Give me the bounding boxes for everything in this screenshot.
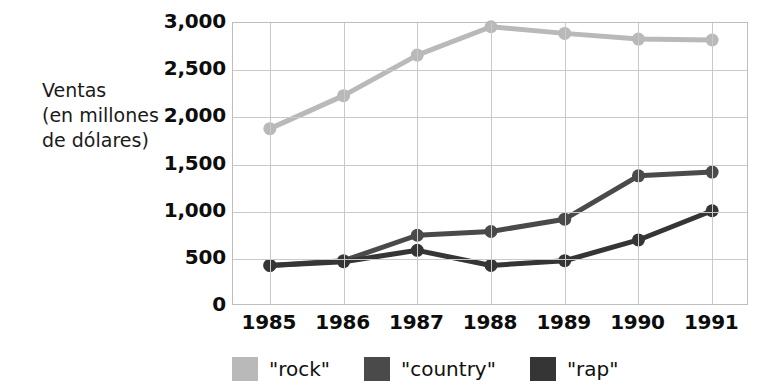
- x-tick-label: 1988: [453, 310, 527, 334]
- legend-swatch-icon: [530, 357, 556, 381]
- x-tick-label: 1989: [527, 310, 601, 334]
- x-tick-label: 1991: [674, 310, 748, 334]
- legend-item[interactable]: "rock": [232, 357, 330, 381]
- gridline-vertical: [417, 23, 418, 304]
- x-axis-tick-labels: 1985198619871988198919901991: [232, 310, 748, 338]
- legend-label: "rap": [567, 357, 619, 381]
- legend-item[interactable]: "rap": [530, 357, 619, 381]
- y-tick-label: 3,000: [148, 9, 226, 33]
- y-tick-label: 1,500: [148, 151, 226, 175]
- chart-figure: Ventas (en millones de dólares) 05001,00…: [0, 0, 772, 392]
- y-tick-label: 2,500: [148, 56, 226, 80]
- x-tick-label: 1986: [306, 310, 380, 334]
- legend-item[interactable]: "country": [364, 357, 496, 381]
- legend-swatch-icon: [364, 357, 390, 381]
- gridline-vertical: [344, 23, 345, 304]
- x-tick-label: 1987: [379, 310, 453, 334]
- gridline-vertical: [565, 23, 566, 304]
- y-tick-label: 0: [148, 292, 226, 316]
- gridline-horizontal: [233, 212, 747, 213]
- gridline-horizontal: [233, 117, 747, 118]
- y-tick-label: 2,000: [148, 103, 226, 127]
- y-tick-label: 500: [148, 245, 226, 269]
- legend-label: "rock": [269, 357, 330, 381]
- y-axis-tick-labels: 05001,0001,5002,0002,5003,000: [142, 0, 226, 330]
- gridline-vertical: [638, 23, 639, 304]
- gridline-vertical: [712, 23, 713, 304]
- chart-legend: "rock""country""rap": [232, 352, 672, 386]
- gridline-vertical: [491, 23, 492, 304]
- gridline-vertical: [270, 23, 271, 304]
- gridline-horizontal: [233, 259, 747, 260]
- gridline-horizontal: [233, 165, 747, 166]
- y-tick-label: 1,000: [148, 198, 226, 222]
- gridline-horizontal: [233, 70, 747, 71]
- legend-swatch-icon: [232, 357, 258, 381]
- x-tick-label: 1985: [232, 310, 306, 334]
- plot-area: [232, 22, 748, 305]
- x-tick-label: 1990: [600, 310, 674, 334]
- legend-label: "country": [401, 357, 496, 381]
